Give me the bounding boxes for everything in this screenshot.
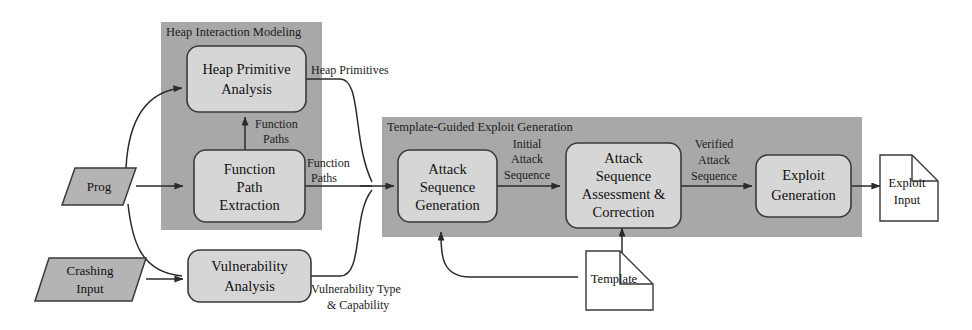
crashing-input-line1: Crashing [67, 263, 114, 278]
label-heap-primitives: Heap Primitives [311, 63, 389, 77]
prog-label: Prog [87, 179, 112, 194]
function-path-extraction-line3: Extraction [219, 197, 280, 213]
label-function-paths-right-line1: Function [307, 156, 350, 170]
exploit-input-line2: Input [894, 193, 921, 207]
function-path-extraction-line2: Path [237, 179, 264, 195]
heap-primitive-analysis-line2: Analysis [221, 81, 272, 97]
attack-sequence-assessment-line2: Sequence [596, 168, 652, 184]
io-node-prog[interactable]: Prog [62, 168, 136, 205]
node-attack-sequence-generation[interactable]: Attack Sequence Generation [398, 150, 497, 222]
io-node-crashing-input[interactable]: Crashing Input [35, 258, 146, 301]
node-vulnerability-analysis[interactable]: Vulnerability Analysis [188, 250, 311, 302]
node-attack-sequence-assessment-correction[interactable]: Attack Sequence Assessment & Correction [566, 143, 681, 228]
attack-sequence-assessment-line3: Assessment & [582, 186, 666, 202]
vulnerability-analysis-line1: Vulnerability [211, 258, 288, 274]
label-verified-attack-sequence-line2: Attack [698, 153, 730, 167]
doc-node-exploit-input[interactable]: Exploit Input [880, 155, 938, 221]
label-function-paths-right-line2: Paths [311, 171, 337, 185]
label-initial-attack-sequence-line1: Initial [513, 137, 542, 151]
node-function-path-extraction[interactable]: Function Path Extraction [194, 150, 305, 222]
label-vulnerability-type-line2: & Capability [327, 298, 389, 312]
vulnerability-analysis-line2: Analysis [224, 278, 275, 294]
doc-node-template[interactable]: Template [586, 251, 653, 310]
group-template-guided-label: Template-Guided Exploit Generation [387, 120, 574, 134]
node-heap-primitive-analysis[interactable]: Heap Primitive Analysis [187, 46, 306, 112]
attack-sequence-generation-line3: Generation [415, 197, 480, 213]
template-label: Template [591, 272, 638, 286]
label-verified-attack-sequence-line3: Sequence [691, 169, 737, 183]
group-heap-interaction-label: Heap Interaction Modeling [166, 25, 302, 39]
flow-diagram-svg: Heap Interaction Modeling Template-Guide… [0, 0, 972, 330]
attack-sequence-assessment-line1: Attack [604, 150, 643, 166]
function-path-extraction-line1: Function [224, 161, 276, 177]
node-exploit-generation[interactable]: Exploit Generation [756, 155, 851, 217]
label-initial-attack-sequence-line2: Attack [511, 152, 543, 166]
attack-sequence-generation-line1: Attack [428, 161, 467, 177]
diagram-canvas: Heap Interaction Modeling Template-Guide… [0, 0, 972, 330]
heap-primitive-analysis-line1: Heap Primitive [202, 61, 290, 77]
crashing-input-line2: Input [76, 281, 104, 296]
attack-sequence-assessment-line4: Correction [592, 204, 655, 220]
exploit-generation-line2: Generation [771, 187, 836, 203]
edge-template-to-asg [441, 232, 578, 277]
label-function-paths-up-line2: Paths [263, 132, 289, 146]
label-function-paths-up-line1: Function [255, 117, 298, 131]
exploit-generation-line1: Exploit [782, 167, 825, 183]
label-initial-attack-sequence-line3: Sequence [504, 168, 550, 182]
exploit-input-line1: Exploit [889, 176, 926, 190]
label-verified-attack-sequence-line1: Verified [695, 137, 734, 151]
attack-sequence-generation-line2: Sequence [420, 179, 476, 195]
label-vulnerability-type-line1: Vulnerability Type [311, 282, 401, 296]
